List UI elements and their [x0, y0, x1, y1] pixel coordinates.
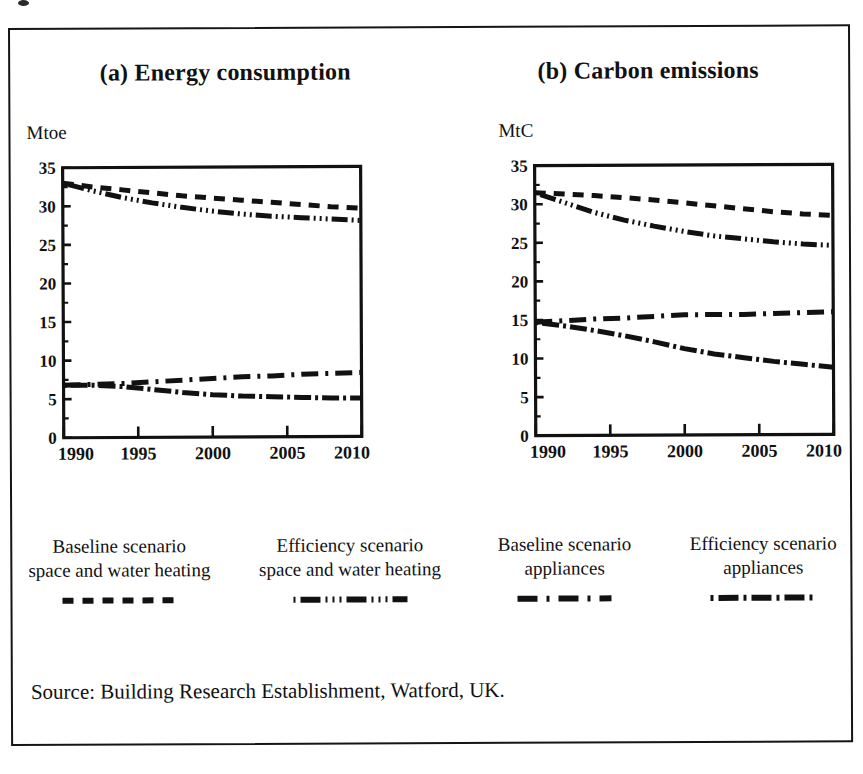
x-tick-label: 2000: [195, 443, 231, 463]
y-tick-label: 30: [511, 195, 528, 214]
x-tick-label: 2005: [741, 441, 777, 461]
panel-a-y-unit-label: Mtoe: [26, 122, 66, 144]
figure-legend: Baseline scenario space and water heatin…: [24, 531, 842, 604]
series-line: [64, 372, 362, 385]
series-line: [535, 191, 833, 216]
dash-dot-line-swatch-svg: [688, 591, 838, 604]
y-tick-label: 10: [511, 350, 528, 369]
legend-label-line2: space and water heating: [28, 558, 210, 583]
chart-panel-carbon-emissions: (b) Carbon emissions MtC 051015202530351…: [440, 56, 840, 85]
y-tick-label: 5: [520, 388, 529, 407]
panel-a-title: (a) Energy consumption: [20, 58, 420, 87]
dash-dot-dot-line-swatch-svg: [275, 593, 425, 606]
series-line: [64, 384, 362, 399]
y-tick-label: 20: [39, 275, 56, 294]
y-tick-label: 15: [39, 313, 56, 332]
x-tick-label: 2005: [269, 443, 305, 463]
y-tick-label: 35: [39, 159, 56, 178]
x-tick-label: 2000: [667, 441, 703, 461]
chart-panel-energy-consumption: (a) Energy consumption Mtoe 051015202530…: [20, 58, 420, 87]
long-dash-dot-line-swatch: [490, 590, 640, 603]
panel-a-svg: 0510152025303519901995200020052010: [21, 154, 382, 481]
panel-b-title: (b) Carbon emissions: [440, 56, 840, 85]
x-tick-label: 2010: [334, 442, 370, 462]
x-tick-label: 1995: [120, 443, 156, 463]
dash-dot-line-swatch: [688, 589, 838, 602]
legend-label-line2: appliances: [688, 556, 838, 581]
x-tick-label: 1995: [592, 441, 628, 461]
panel-b-y-unit-label: MtC: [498, 120, 533, 142]
y-tick-label: 35: [511, 157, 528, 176]
legend-item-efficiency-heating: Efficiency scenario space and water heat…: [255, 533, 445, 603]
legend-label-line1: Baseline scenario: [490, 532, 640, 557]
x-tick-label: 1990: [58, 444, 94, 464]
legend-item-efficiency-appliances: Efficiency scenario appliances: [684, 531, 842, 601]
x-tick-label: 1990: [530, 442, 566, 462]
y-tick-label: 0: [520, 427, 529, 446]
panel-a-plot-area: 0510152025303519901995200020052010: [21, 154, 382, 481]
legend-label-line1: Baseline scenario: [28, 534, 210, 559]
legend-item-baseline-appliances: Baseline scenario appliances: [486, 532, 644, 602]
dashed-line-swatch-svg: [44, 594, 194, 607]
scan-ink-speck: [18, 0, 29, 6]
y-tick-label: 25: [511, 234, 528, 253]
figure-frame: (a) Energy consumption Mtoe 051015202530…: [8, 24, 853, 746]
y-tick-label: 30: [39, 197, 56, 216]
legend-label-line2: appliances: [490, 557, 640, 582]
long-dash-dot-line-swatch-svg: [490, 592, 640, 605]
dash-dot-dot-line-swatch: [259, 591, 441, 604]
y-tick-label: 15: [511, 311, 528, 330]
y-tick-label: 20: [511, 272, 528, 291]
y-tick-label: 5: [48, 390, 57, 409]
series-line: [535, 312, 833, 323]
y-tick-label: 10: [39, 352, 56, 371]
panel-b-svg: 0510152025303519901995200020052010: [493, 152, 854, 479]
y-tick-label: 0: [48, 429, 57, 448]
legend-label-line1: Efficiency scenario: [259, 533, 441, 558]
y-tick-label: 25: [39, 236, 56, 255]
panel-b-plot-area: 0510152025303519901995200020052010: [493, 152, 854, 479]
series-line: [535, 191, 833, 246]
source-note: Source: Building Research Establishment,…: [31, 678, 505, 705]
legend-item-baseline-heating: Baseline scenario space and water heatin…: [24, 534, 214, 604]
dashed-line-swatch: [28, 592, 210, 605]
legend-label-line1: Efficiency scenario: [688, 531, 838, 556]
legend-label-line2: space and water heating: [259, 557, 441, 582]
series-line: [535, 321, 833, 369]
x-tick-label: 2010: [806, 440, 842, 460]
